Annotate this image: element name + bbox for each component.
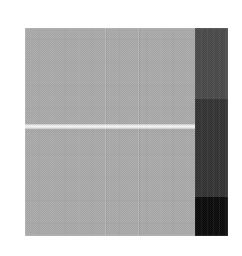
- image-canvas: [0, 0, 242, 256]
- vertical-seam-dark-1: [106, 28, 107, 236]
- light-horizontal-stripe: [25, 124, 195, 129]
- tone-band-lower-near-black: [195, 197, 228, 236]
- vertical-seam-dark-2: [139, 28, 140, 236]
- tone-band-middle-darker-gray: [195, 99, 228, 197]
- grayscale-panel: [25, 28, 228, 236]
- gray-field-region: [25, 28, 195, 236]
- tone-band-upper-dark-gray: [195, 28, 228, 99]
- right-tonal-column: [195, 28, 228, 236]
